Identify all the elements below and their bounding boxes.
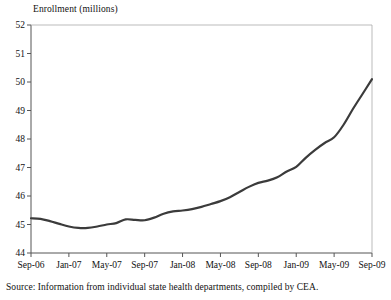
y-tick-label: 45 — [5, 220, 25, 230]
x-tick-label: Sep-06 — [18, 260, 45, 270]
x-tick-label: Jan-08 — [170, 260, 195, 270]
x-tick-label: May-08 — [205, 260, 235, 270]
x-tick-label: Jan-07 — [56, 260, 81, 270]
chart-plot-area — [0, 0, 391, 300]
x-tick-label: Jan-09 — [284, 260, 309, 270]
y-tick-label: 49 — [5, 106, 25, 116]
y-tick-label: 50 — [5, 77, 25, 87]
x-tick-label: May-07 — [92, 260, 122, 270]
y-tick-label: 44 — [5, 248, 25, 258]
x-tick-marks — [31, 253, 372, 257]
y-tick-label: 48 — [5, 134, 25, 144]
chart-axes — [31, 25, 372, 253]
enrollment-line-series — [31, 79, 372, 228]
y-tick-label: 51 — [5, 49, 25, 59]
y-tick-label: 46 — [5, 191, 25, 201]
x-tick-label: May-09 — [319, 260, 349, 270]
x-tick-label: Sep-08 — [245, 260, 272, 270]
x-tick-label: Sep-09 — [359, 260, 386, 270]
source-note: Source: Information from individual stat… — [6, 281, 318, 293]
y-tick-label: 52 — [5, 20, 25, 30]
y-tick-label: 47 — [5, 163, 25, 173]
x-tick-label: Sep-07 — [131, 260, 158, 270]
chart-figure: Enrollment (millions) 444546474849505152… — [0, 0, 391, 300]
